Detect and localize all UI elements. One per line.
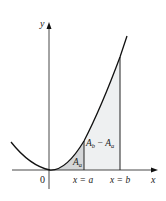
y-axis-arrow-icon [47,22,52,29]
y-axis-label: y [39,18,45,29]
area-diagram: y x 0 x = a x = b Aa Ab − Aa [0,0,166,201]
region-difference [84,57,120,170]
x-axis-label: x [150,174,156,185]
area-difference-label: Ab − Aa [85,138,114,149]
marker-a-label: x = a [72,175,93,185]
marker-b-label: x = b [109,175,130,185]
x-axis-arrow-icon [151,168,158,173]
origin-label: 0 [40,174,45,185]
